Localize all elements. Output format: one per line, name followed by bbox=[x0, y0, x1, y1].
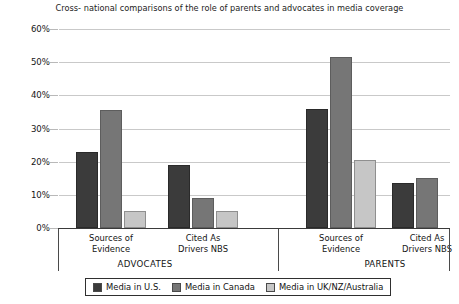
y-axis-tick-label: 20% bbox=[6, 157, 50, 167]
y-tick-mark bbox=[50, 195, 58, 196]
y-axis-tick-label: 60% bbox=[6, 24, 50, 34]
legend-swatch-canada-icon bbox=[172, 283, 181, 292]
category-label-line1: Sources of bbox=[296, 233, 386, 244]
y-axis-tick-label: 40% bbox=[6, 90, 50, 100]
group-separator bbox=[278, 229, 279, 271]
category-label: Sources ofEvidence bbox=[296, 233, 386, 254]
y-axis-tick-label: 10% bbox=[6, 190, 50, 200]
y-tick-mark bbox=[50, 95, 58, 96]
bar bbox=[392, 183, 414, 228]
y-tick-mark bbox=[50, 129, 58, 130]
legend-label-uk: Media in UK/NZ/Australia bbox=[279, 282, 383, 292]
bar bbox=[124, 211, 146, 228]
category-label-line2: Evidence bbox=[66, 244, 156, 255]
group-label: ADVOCATES bbox=[85, 259, 205, 269]
axis-end-tick bbox=[58, 229, 59, 271]
bar bbox=[100, 110, 122, 228]
category-label-line2: Drivers NBS bbox=[158, 244, 248, 255]
y-tick-mark bbox=[50, 62, 58, 63]
category-label-line1: Cited As bbox=[158, 233, 248, 244]
legend-item-us: Media in U.S. bbox=[93, 282, 161, 292]
bar bbox=[330, 57, 352, 228]
chart-title: Cross- national comparisons of the role … bbox=[0, 3, 459, 13]
legend-label-canada: Media in Canada bbox=[185, 282, 255, 292]
legend-item-uk: Media in UK/NZ/Australia bbox=[266, 282, 383, 292]
legend-label-us: Media in U.S. bbox=[106, 282, 161, 292]
category-label: Cited AsDrivers NBS bbox=[382, 233, 459, 254]
y-tick-mark bbox=[50, 162, 58, 163]
group-label: PARENTS bbox=[325, 259, 445, 269]
axis-end-tick bbox=[449, 229, 450, 271]
bar-chart-figure: Cross- national comparisons of the role … bbox=[0, 0, 459, 304]
x-axis-line bbox=[58, 228, 450, 229]
y-tick-mark bbox=[50, 228, 58, 229]
y-axis-tick-label: 30% bbox=[6, 124, 50, 134]
category-label-line2: Drivers NBS bbox=[382, 244, 459, 255]
y-axis-tick-label: 50% bbox=[6, 57, 50, 67]
category-label-line2: Evidence bbox=[296, 244, 386, 255]
bar bbox=[216, 211, 238, 228]
category-label-line1: Cited As bbox=[382, 233, 459, 244]
category-label: Sources ofEvidence bbox=[66, 233, 156, 254]
legend-swatch-us-icon bbox=[93, 283, 102, 292]
bar bbox=[416, 178, 438, 228]
y-axis-tick-label: 0% bbox=[6, 223, 50, 233]
bar bbox=[354, 160, 376, 228]
bars-layer bbox=[58, 29, 450, 228]
bar bbox=[306, 109, 328, 228]
category-label-line1: Sources of bbox=[66, 233, 156, 244]
bar bbox=[76, 152, 98, 228]
legend-item-canada: Media in Canada bbox=[172, 282, 255, 292]
chart-legend: Media in U.S. Media in Canada Media in U… bbox=[85, 278, 391, 296]
category-label: Cited AsDrivers NBS bbox=[158, 233, 248, 254]
bar bbox=[192, 198, 214, 228]
y-tick-mark bbox=[50, 29, 58, 30]
legend-swatch-uk-icon bbox=[266, 283, 275, 292]
bar bbox=[168, 165, 190, 228]
y-axis-labels: 60%50%40%30%20%10%0% bbox=[0, 0, 50, 304]
